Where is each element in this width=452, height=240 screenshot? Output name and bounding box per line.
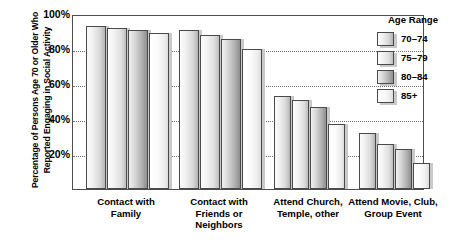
legend-label: 70–74: [401, 33, 428, 44]
bar-slot: [106, 16, 127, 189]
bars: [178, 16, 262, 189]
bar[interactable]: [377, 144, 394, 190]
bar[interactable]: [242, 49, 262, 189]
y-axis-tick-label: 80%: [26, 44, 70, 55]
bar-slot: [178, 16, 199, 189]
bar-slot: [85, 16, 106, 189]
x-axis-category-label-line: Attend Movie, Club,: [338, 196, 448, 208]
bar-group: [178, 16, 262, 189]
bar-slot: [127, 16, 148, 189]
bar[interactable]: [274, 96, 291, 189]
bar-slot: [358, 16, 376, 189]
legend-swatch: [377, 70, 394, 84]
y-axis-title: Percentage of Persons Age 70 or Older Wh…: [0, 0, 34, 200]
bar-slot: [309, 16, 327, 189]
bar-slot: [291, 16, 309, 189]
y-axis-title-line-2: Reported Engaging in Social Activity: [42, 2, 54, 198]
y-axis-tick-label: 40%: [26, 114, 70, 125]
bar-slot: [327, 16, 345, 189]
legend-title: Age Range: [377, 14, 449, 25]
bar[interactable]: [86, 26, 106, 189]
legend-swatch: [377, 89, 394, 103]
bar-group: [273, 16, 345, 189]
legend-entries: 70–7475–7980–8485+: [375, 29, 449, 105]
bar[interactable]: [359, 133, 376, 189]
y-axis-tick-label: 60%: [26, 79, 70, 90]
legend-entry[interactable]: 85+: [377, 86, 449, 105]
bar[interactable]: [292, 100, 309, 189]
legend-swatch: [377, 32, 394, 46]
bar[interactable]: [395, 149, 412, 189]
bar[interactable]: [128, 30, 148, 189]
legend-label: 85+: [401, 90, 417, 101]
legend-swatch-fill: [377, 89, 394, 103]
legend-entry[interactable]: 70–74: [377, 29, 449, 48]
x-axis-category-label-line: Group Event: [338, 208, 448, 220]
bar-slot: [241, 16, 262, 189]
bar-slot: [199, 16, 220, 189]
legend-swatch-fill: [377, 51, 394, 65]
bar[interactable]: [149, 33, 169, 189]
bar[interactable]: [310, 107, 327, 189]
bar-group: [85, 16, 169, 189]
plot-area: [72, 15, 424, 190]
chart-figure: Percentage of Persons Age 70 or Older Wh…: [0, 0, 452, 240]
bar-slot: [148, 16, 169, 189]
legend: Age Range 70–7475–7980–8485+: [375, 14, 449, 124]
bars: [273, 16, 345, 189]
legend-swatch-fill: [377, 70, 394, 84]
legend-label: 75–79: [401, 52, 428, 63]
x-axis-category-label: Attend Movie, Club,Group Event: [338, 196, 448, 219]
x-axis-category-label-line: Neighbors: [164, 219, 274, 231]
y-axis-tick-label: 20%: [26, 149, 70, 160]
bar-slot: [220, 16, 241, 189]
bar[interactable]: [179, 30, 199, 189]
legend-swatch-fill: [377, 32, 394, 46]
bar-slot: [273, 16, 291, 189]
legend-swatch: [377, 51, 394, 65]
bar[interactable]: [328, 124, 345, 189]
bar[interactable]: [107, 28, 127, 189]
legend-entry[interactable]: 75–79: [377, 48, 449, 67]
bar[interactable]: [413, 163, 430, 189]
bars: [85, 16, 169, 189]
y-axis-tick-label: 100%: [26, 9, 70, 20]
bar[interactable]: [221, 39, 241, 190]
legend-label: 80–84: [401, 71, 428, 82]
bar[interactable]: [200, 35, 220, 189]
legend-entry[interactable]: 80–84: [377, 67, 449, 86]
y-axis-title-line-1: Percentage of Persons Age 70 or Older Wh…: [30, 2, 42, 198]
